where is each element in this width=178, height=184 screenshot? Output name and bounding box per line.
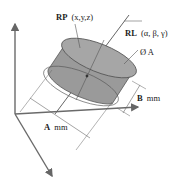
cylinder bbox=[39, 30, 142, 114]
rp-label: RP (x,y,z) bbox=[56, 12, 93, 22]
cylinder-coordinate-diagram: RP (x,y,z) RL (α, β, γ) Ø A B mm A mm bbox=[0, 0, 178, 184]
diameter-label: Ø A bbox=[140, 47, 155, 57]
a-dimension-label: A mm bbox=[44, 122, 68, 132]
rl-label: RL (α, β, γ) bbox=[125, 28, 168, 38]
x-axis bbox=[15, 107, 138, 114]
reference-point-dot bbox=[86, 75, 89, 78]
b-dimension-label: B mm bbox=[137, 93, 160, 103]
